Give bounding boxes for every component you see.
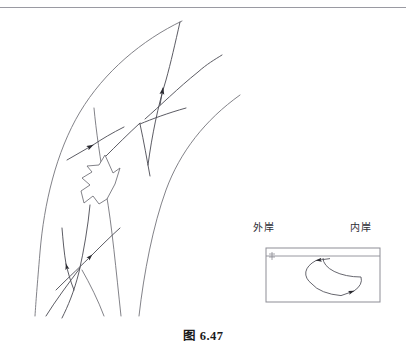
circulation-arrow-bottom xyxy=(341,291,354,296)
flow-arrow-upper-main xyxy=(160,88,163,105)
flow-line-lower-diagonal-tail xyxy=(92,228,120,255)
figure-caption: 图 6.47 xyxy=(0,325,406,344)
inner-bank-label: 内岸 xyxy=(350,219,371,234)
flow-line-descend-right xyxy=(140,124,150,176)
block-arrow-icon xyxy=(81,155,120,204)
flow-line-lower-cross xyxy=(46,268,80,316)
figure-illustration xyxy=(0,0,406,358)
circulation-ellipse-upper xyxy=(323,258,361,277)
mid-channel-line xyxy=(94,108,121,316)
outer-bank-label: 外岸 xyxy=(253,219,274,234)
flow-line-cross-short xyxy=(140,108,186,124)
flow-line-lower-vertical-tail xyxy=(62,228,66,264)
circulation-ellipse-left xyxy=(306,261,316,285)
flow-line-upper-main xyxy=(148,22,180,165)
flow-line-left-upper xyxy=(67,145,93,160)
flow-line-upper-right xyxy=(145,55,222,119)
channel-tail-line xyxy=(82,270,104,316)
circulation-ellipse-right xyxy=(354,277,361,291)
flow-line-lower-diagonal xyxy=(56,255,92,290)
circulation-ellipse-lower xyxy=(312,284,341,296)
figure-page: 外岸 内岸 图 6.47 xyxy=(0,0,406,358)
inset-cross-section xyxy=(266,248,380,302)
